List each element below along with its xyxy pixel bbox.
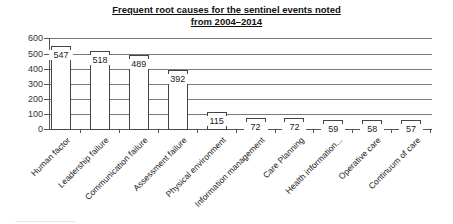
x-tick-mark bbox=[313, 129, 314, 133]
x-tick-mark bbox=[430, 129, 431, 133]
divider bbox=[15, 221, 75, 222]
data-label: 392 bbox=[166, 74, 190, 84]
data-label: 547 bbox=[49, 50, 73, 60]
x-tick-mark bbox=[197, 129, 198, 133]
y-tick-label: 300 bbox=[19, 79, 43, 89]
data-label: 58 bbox=[360, 124, 384, 134]
x-tick-mark bbox=[119, 129, 120, 133]
gridline bbox=[49, 38, 432, 39]
x-tick-mark bbox=[352, 129, 353, 133]
x-tick-label: Information management bbox=[193, 135, 267, 209]
x-tick-mark bbox=[275, 129, 276, 133]
data-label: 489 bbox=[127, 59, 151, 69]
x-tick-mark bbox=[158, 129, 159, 133]
data-label: 59 bbox=[321, 124, 345, 134]
data-label: 518 bbox=[88, 55, 112, 65]
y-tick-label: 100 bbox=[19, 109, 43, 119]
x-tick-mark bbox=[391, 129, 392, 133]
x-tick-mark bbox=[236, 129, 237, 133]
y-tick-label: 600 bbox=[19, 33, 43, 43]
y-tick-label: 200 bbox=[19, 94, 43, 104]
chart-title-line-2: from 2004–2014 bbox=[0, 16, 453, 28]
y-tick-label: 0 bbox=[19, 124, 43, 134]
y-tick-label: 500 bbox=[19, 49, 43, 59]
data-label: 72 bbox=[282, 122, 306, 132]
y-tick-label: 400 bbox=[19, 64, 43, 74]
data-label: 72 bbox=[244, 122, 268, 132]
data-label: 115 bbox=[205, 116, 229, 126]
data-label: 57 bbox=[399, 124, 423, 134]
chart-title-line-1: Frequent root causes for the sentinel ev… bbox=[0, 4, 453, 16]
x-tick-mark bbox=[80, 129, 81, 133]
